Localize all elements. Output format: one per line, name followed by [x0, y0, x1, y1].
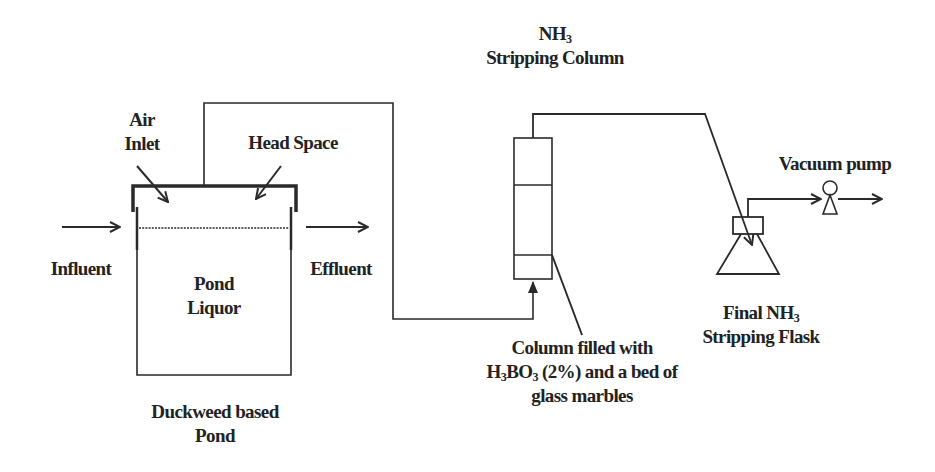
label-final-flask: Final NH3 Stripping Flask: [676, 301, 846, 349]
vacuum-pump-icon: [823, 181, 837, 214]
label-duckweed-pond-line2: Pond: [120, 424, 310, 448]
label-air-inlet: Air Inlet: [100, 108, 184, 156]
label-pond-liquor-line1: Pond: [164, 272, 264, 296]
label-effluent: Effluent: [296, 257, 386, 281]
label-nh3-stripping-column: NH3 Stripping Column: [470, 22, 640, 70]
label-influent: Influent: [36, 257, 126, 281]
label-duckweed-pond: Duckweed based Pond: [120, 400, 310, 448]
label-head-space: Head Space: [228, 131, 358, 155]
label-duckweed-pond-line1: Duckweed based: [120, 400, 310, 424]
label-nh3-formula: NH3: [470, 22, 640, 46]
column-body: [514, 138, 552, 279]
air-inlet-arrow: [137, 166, 168, 202]
label-pond-liquor-line2: Liquor: [164, 296, 264, 320]
label-column-fill-line1: Column filled with: [462, 336, 702, 360]
flask-body: [717, 234, 779, 274]
final-stripping-flask: [717, 217, 779, 274]
label-stripping-column-text: Stripping Column: [470, 46, 640, 70]
label-pond-liquor: Pond Liquor: [164, 272, 264, 320]
column-fill-leader: [552, 255, 582, 335]
stripping-column: [514, 138, 552, 279]
label-column-fill-line2: H3BO3 (2%) and a bed of: [462, 360, 702, 384]
label-column-fill: Column filled with H3BO3 (2%) and a bed …: [462, 336, 702, 408]
label-air-inlet-line1: Air: [100, 108, 184, 132]
label-stripping-flask-text: Stripping Flask: [676, 325, 846, 349]
column-outlet-pipe: [533, 114, 752, 245]
label-column-fill-line3: glass marbles: [462, 384, 702, 408]
label-final-nh3: Final NH3: [676, 301, 846, 325]
head-space-arrow: [256, 166, 281, 199]
flask-to-pump-pipe: [748, 199, 821, 217]
label-air-inlet-line2: Inlet: [100, 132, 184, 156]
label-vacuum-pump: Vacuum pump: [765, 152, 905, 176]
